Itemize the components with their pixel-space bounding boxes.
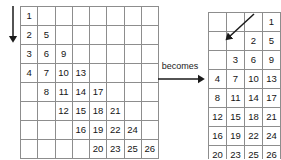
- grid-cell-empty: [72, 45, 89, 64]
- grid-cell: 3: [227, 51, 245, 70]
- grid-cell-empty: [55, 26, 72, 45]
- grid-row: 25: [209, 32, 281, 51]
- grid-cell: 17: [90, 83, 107, 102]
- grid-cell: 26: [141, 140, 158, 159]
- grid-cell: 21: [107, 102, 124, 121]
- grid-cell: 24: [124, 121, 141, 140]
- grid-cell: 15: [227, 108, 245, 127]
- grid-cell-empty: [55, 140, 72, 159]
- grid-cell-empty: [227, 13, 245, 32]
- grid-cell-empty: [21, 140, 38, 159]
- grid-cell: 20: [90, 140, 107, 159]
- grid-cell: 23: [227, 146, 245, 160]
- original-grid: 1253694710138111417121518211619222420232…: [20, 6, 159, 159]
- grid-cell-empty: [38, 121, 55, 140]
- diagram-canvas: 1253694710138111417121518211619222420232…: [0, 0, 281, 159]
- grid-cell: 8: [209, 89, 227, 108]
- grid-row: 471013: [209, 70, 281, 89]
- grid-cell: 11: [227, 89, 245, 108]
- grid-cell: 20: [209, 146, 227, 160]
- grid-cell: 26: [263, 146, 281, 160]
- grid-cell: 7: [38, 64, 55, 83]
- original-grid-body: 1253694710138111417121518211619222420232…: [21, 7, 159, 159]
- grid-cell: 13: [263, 70, 281, 89]
- grid-cell-empty: [21, 83, 38, 102]
- grid-cell-empty: [209, 32, 227, 51]
- grid-cell: 11: [55, 83, 72, 102]
- grid-cell-empty: [21, 102, 38, 121]
- grid-cell: 22: [245, 127, 263, 146]
- grid-cell: 6: [38, 45, 55, 64]
- grid-cell-empty: [141, 7, 158, 26]
- grid-cell-empty: [141, 45, 158, 64]
- grid-cell: 10: [55, 64, 72, 83]
- becomes-label: becomes: [156, 62, 204, 71]
- grid-cell: 6: [245, 51, 263, 70]
- grid-cell: 23: [107, 140, 124, 159]
- grid-cell-empty: [124, 102, 141, 121]
- grid-cell: 2: [21, 26, 38, 45]
- grid-cell: 5: [263, 32, 281, 51]
- grid-row: 471013: [21, 64, 159, 83]
- grid-row: 8111417: [21, 83, 159, 102]
- grid-cell-empty: [38, 7, 55, 26]
- grid-cell: 16: [72, 121, 89, 140]
- grid-cell: 8: [38, 83, 55, 102]
- grid-cell: 14: [245, 89, 263, 108]
- grid-row: 369: [209, 51, 281, 70]
- grid-cell: 18: [90, 102, 107, 121]
- grid-cell: 21: [263, 108, 281, 127]
- grid-cell: 13: [72, 64, 89, 83]
- grid-cell-empty: [107, 7, 124, 26]
- grid-row: 369: [21, 45, 159, 64]
- transformed-grid-body: 1253694710138111417121518211619222420232…: [209, 13, 281, 160]
- grid-cell: 4: [21, 64, 38, 83]
- grid-cell-empty: [38, 140, 55, 159]
- grid-cell-empty: [90, 64, 107, 83]
- grid-cell: 3: [21, 45, 38, 64]
- grid-row: 1: [21, 7, 159, 26]
- grid-cell-empty: [107, 45, 124, 64]
- grid-cell-empty: [245, 13, 263, 32]
- grid-cell-empty: [90, 7, 107, 26]
- grid-row: 20232526: [21, 140, 159, 159]
- grid-cell: 1: [21, 7, 38, 26]
- grid-cell-empty: [209, 51, 227, 70]
- grid-cell-empty: [90, 26, 107, 45]
- grid-cell-empty: [209, 13, 227, 32]
- grid-cell-empty: [21, 121, 38, 140]
- grid-cell-empty: [55, 121, 72, 140]
- grid-cell-empty: [55, 7, 72, 26]
- grid-cell: 25: [245, 146, 263, 160]
- grid-cell-empty: [141, 83, 158, 102]
- grid-cell-empty: [107, 26, 124, 45]
- grid-cell: 19: [227, 127, 245, 146]
- grid-cell: 15: [72, 102, 89, 121]
- transformed-grid: 1253694710138111417121518211619222420232…: [208, 12, 281, 159]
- grid-row: 25: [21, 26, 159, 45]
- grid-cell-empty: [141, 121, 158, 140]
- grid-cell: 18: [245, 108, 263, 127]
- grid-cell: 17: [263, 89, 281, 108]
- grid-cell: 12: [209, 108, 227, 127]
- grid-row: 8111417: [209, 89, 281, 108]
- grid-row: 12151821: [21, 102, 159, 121]
- grid-cell: 12: [55, 102, 72, 121]
- grid-cell: 10: [245, 70, 263, 89]
- grid-row: 20232526: [209, 146, 281, 160]
- grid-cell-empty: [107, 64, 124, 83]
- grid-cell: 7: [227, 70, 245, 89]
- grid-cell-empty: [107, 83, 124, 102]
- grid-cell-empty: [72, 140, 89, 159]
- grid-cell: 25: [124, 140, 141, 159]
- grid-row: 16192224: [21, 121, 159, 140]
- grid-cell: 24: [263, 127, 281, 146]
- grid-cell: 16: [209, 127, 227, 146]
- grid-row: 16192224: [209, 127, 281, 146]
- grid-cell-empty: [227, 32, 245, 51]
- grid-row: 1: [209, 13, 281, 32]
- grid-cell-empty: [124, 83, 141, 102]
- grid-cell: 4: [209, 70, 227, 89]
- grid-cell: 19: [90, 121, 107, 140]
- grid-cell: 1: [263, 13, 281, 32]
